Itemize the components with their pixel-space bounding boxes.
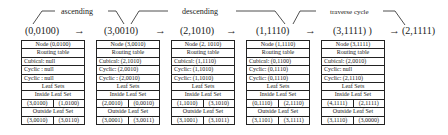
inside-leaf-entry: (0,1110) [247,100,279,107]
inside-leaf-entry: (3,0100) [22,100,54,107]
node-title: Node (3,0010) [97,41,159,49]
arrow-icon: → [226,24,237,36]
routing-table-header: Routing table [22,49,84,57]
inside-leaf-set-row: (3,0100) (1,0100) [22,100,84,108]
cubical-entry: Cubical: (2,1010) [97,58,159,66]
leaf-sets-header: Leaf Sets [172,83,234,91]
routing-table-header: Routing table [172,49,234,57]
outside-leaf-entry: (3,1011) [204,117,235,124]
outside-leaf-entry: (3,0000) [354,117,385,124]
inside-leaf-entry: (2,0010) [97,100,129,107]
cyclic-entry: Cyclic: (2,0010) [97,66,159,74]
cubical-entry: Cubical: (0,1100) [247,58,309,66]
cyclic-entry: Cyclic: (2,1110) [322,75,384,83]
cyclic-entry: Cyclic : null [22,75,84,83]
outside-leaf-set-header: Outside Leaf Set [22,108,84,116]
cyclic-entry: Cyclic: (0,1110) [247,75,309,83]
phase-label-ascending: ascending [61,7,93,16]
inside-leaf-entry: (2,1111) [354,100,385,107]
routing-table-header: Routing table [247,49,309,57]
inside-leaf-set-header: Inside Leaf Set [247,91,309,99]
inside-leaf-set-row: (1,1010) (3,1010) [172,100,234,108]
outside-leaf-set-header: Outside Leaf Set [322,108,384,116]
node-title: Node (0,0100) [22,41,84,49]
cyclic-entry: Cyclic : null [22,66,84,74]
outside-leaf-set-header: Outside Leaf Set [97,108,159,116]
leaf-sets-header: Leaf Sets [97,83,159,91]
inside-leaf-entry: (3,1010) [204,100,235,107]
cyclic-entry: Cyclic: null [322,66,384,74]
cubical-entry: Cubical: (2,0010) [322,58,384,66]
routing-table-header: Routing table [97,49,159,57]
outside-leaf-entry: (3,0110) [54,117,85,124]
routing-table-header: Routing table [322,49,384,57]
arrow-icon: → [305,24,316,36]
inside-leaf-set-row: (2,0010) (0,0010) [97,100,159,108]
cubical-entry: Cubical: (1,1110) [172,58,234,66]
leaf-sets-header: Leaf Sets [247,83,309,91]
cyclic-entry: Cyclic: (1,1010) [172,75,234,83]
inside-leaf-entry: (1,1010) [172,100,204,107]
inside-leaf-entry: (4,1111) [322,100,354,107]
arrow-icon: → [155,24,166,36]
arrow-icon: → [74,24,85,36]
path-node-2: (3,0010) [104,25,138,36]
node-table-1: Node (0,0100) Routing table Cubical: nul… [21,40,85,125]
inside-leaf-entry: (0,0010) [129,100,160,107]
inside-leaf-set-row: (0,1110) (2,1110) [247,100,309,108]
cyclic-entry: Cyclic: (0,1110) [247,66,309,74]
path-node-1: (0,0100) [25,25,59,36]
arrow-icon: → [389,24,400,36]
inside-leaf-set-header: Inside Leaf Set [172,91,234,99]
cubical-entry: Cubical: null [22,58,84,66]
outside-leaf-set-header: Outside Leaf Set [172,108,234,116]
path-node-4: (1,1110) [256,25,289,36]
node-table-2: Node (3,0010) Routing table Cubical: (2,… [96,40,160,125]
node-title: Node (3,1111) [322,41,384,49]
outside-leaf-entry: (3,0010) [22,117,54,124]
outside-leaf-entry: (3,1111) [279,117,310,124]
inside-leaf-set-header: Inside Leaf Set [322,91,384,99]
inside-leaf-set-row: (4,1111) (2,1111) [322,100,384,108]
phase-label-traverse-cycle: traverse cycle [330,8,369,16]
path-node-6: (2,1111) [402,25,435,36]
inside-leaf-entry: (1,0100) [54,100,85,107]
path-node-3: (2,1010) [180,25,214,36]
outside-leaf-entry: (3,0011) [129,117,160,124]
outside-leaf-entry: (3,1001) [172,117,204,124]
node-table-5: Node (3,1111) Routing table Cubical: (2,… [321,40,385,125]
cyclic-entry: Cyclic : (2,0010) [97,75,159,83]
inside-leaf-set-header: Inside Leaf Set [97,91,159,99]
leaf-sets-header: Leaf Sets [322,83,384,91]
node-title: Node (1,1110) [247,41,309,49]
outside-leaf-set-row: (3,1001) (3,1011) [172,117,234,124]
outside-leaf-entry: (3,0001) [97,117,129,124]
inside-leaf-set-header: Inside Leaf Set [22,91,84,99]
outside-leaf-entry: (3,1101) [247,117,279,124]
outside-leaf-set-header: Outside Leaf Set [247,108,309,116]
path-node-5: (3,1111) ) [333,25,372,36]
phase-label-descending: descending [182,7,218,16]
node-table-3: Node (2, 1010) Routing table Cubical: (1… [171,40,235,125]
cyclic-entry: Cyclic: (1,1010) [172,66,234,74]
node-table-4: Node (1,1110) Routing table Cubical: (0,… [246,40,310,125]
outside-leaf-set-row: (3,1101) (3,1111) [247,117,309,124]
node-title: Node (2, 1010) [172,41,234,49]
outside-leaf-set-row: (3,0010) (3,0110) [22,117,84,124]
leaf-sets-header: Leaf Sets [22,83,84,91]
outside-leaf-set-row: (3,1110) (3,0000) [322,117,384,124]
outside-leaf-set-row: (3,0001) (3,0011) [97,117,159,124]
outside-leaf-entry: (3,1110) [322,117,354,124]
inside-leaf-entry: (2,1110) [279,100,310,107]
